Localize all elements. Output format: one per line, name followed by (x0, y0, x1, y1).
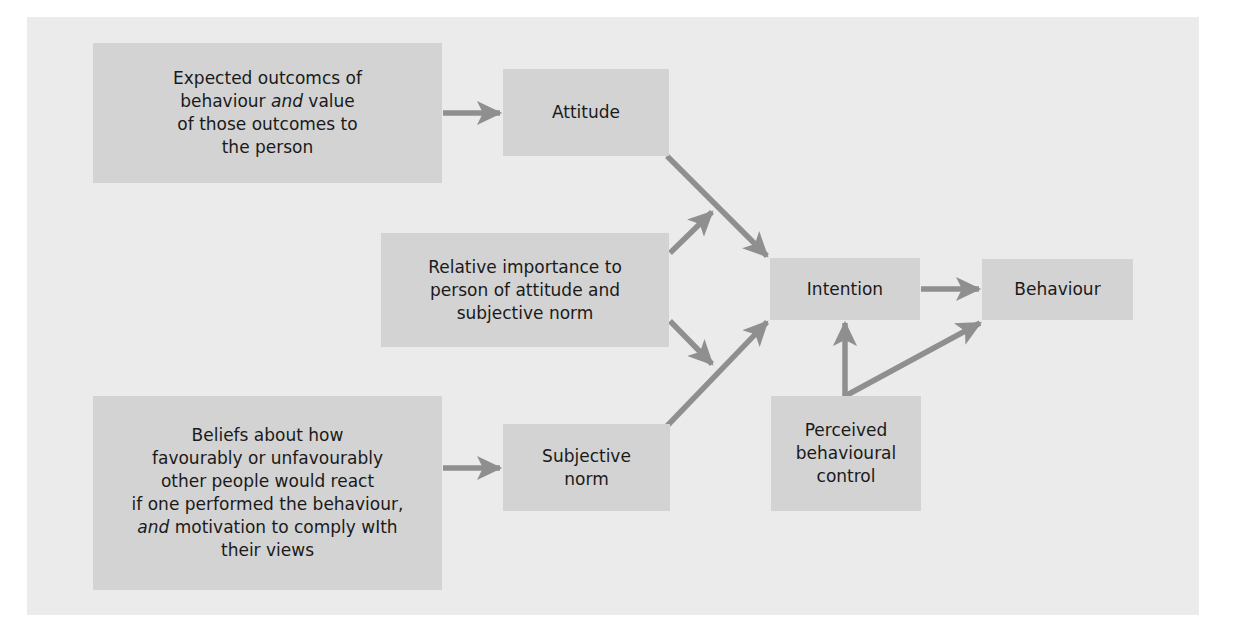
node-text-line: Expected outcomcs of (173, 67, 362, 90)
node-text-line: if one performed the behaviour, (132, 493, 404, 516)
node-text-line: favourably or unfavourably (132, 447, 404, 470)
node-label: Behaviour (1014, 278, 1100, 301)
node-intention: Intention (770, 258, 920, 320)
node-text-line: Subjective (542, 445, 631, 468)
node-text-line: the person (173, 136, 362, 159)
node-subjective-norm: Subjective norm (503, 424, 670, 511)
node-label: Attitude (552, 101, 620, 124)
node-label: Intention (807, 278, 883, 301)
node-text-line: behavioural (796, 442, 897, 465)
node-text-line: Beliefs about how (132, 424, 404, 447)
node-attitude: Attitude (503, 69, 669, 156)
node-expected-outcomes: Expected outcomcs of behaviour and value… (93, 43, 442, 183)
node-text-line: subjective norm (428, 302, 622, 325)
node-text-line: control (796, 465, 897, 488)
node-text-line: their views (132, 539, 404, 562)
node-beliefs: Beliefs about how favourably or unfavour… (93, 396, 442, 590)
node-text-line: of those outcomes to (173, 113, 362, 136)
node-text-line: other people would react (132, 470, 404, 493)
node-behaviour: Behaviour (982, 259, 1133, 320)
node-relative-importance: Relative importance to person of attitud… (381, 233, 669, 347)
node-perceived-behavioural-control: Perceived behavioural control (771, 396, 921, 511)
node-text-line: Perceived (796, 419, 897, 442)
node-text-line: Relative importance to (428, 256, 622, 279)
node-text-line: behaviour and value (173, 90, 362, 113)
emphasis-and: and (137, 517, 169, 537)
node-text-line: person of attitude and (428, 279, 622, 302)
node-text-line: and motivation to comply wIth (132, 516, 404, 539)
node-text-line: norm (542, 468, 631, 491)
emphasis-and: and (271, 91, 303, 111)
